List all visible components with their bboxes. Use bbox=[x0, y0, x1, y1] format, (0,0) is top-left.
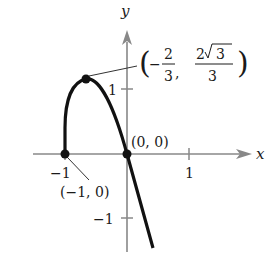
tick-label-y-pos1: 1 bbox=[108, 82, 117, 98]
tick-label-x-pos1: 1 bbox=[185, 165, 194, 181]
y-axis-label: y bbox=[120, 2, 130, 20]
minus-sign: − bbox=[149, 56, 161, 72]
frac1-numerator: 2 bbox=[164, 46, 173, 62]
graph: y x −1 1 1 −1 (0, 0) (−1, 0) ( − 2 3 , 2… bbox=[0, 0, 275, 260]
point-origin bbox=[123, 150, 132, 159]
point-neg1-0 bbox=[61, 150, 70, 159]
frac1-denominator: 3 bbox=[164, 68, 173, 84]
tick-label-x-neg1: −1 bbox=[50, 165, 71, 181]
leader-line-neg1-0 bbox=[68, 158, 89, 180]
label-neg1-0: (−1, 0) bbox=[60, 184, 109, 200]
frac2-denominator: 3 bbox=[208, 68, 217, 84]
frac2-coef: 2 bbox=[196, 46, 205, 62]
paren-close: ) bbox=[237, 45, 249, 80]
x-axis-label: x bbox=[256, 145, 265, 163]
tick-label-y-neg1: −1 bbox=[93, 211, 114, 227]
leader-line-maximum bbox=[89, 66, 137, 76]
label-maximum: ( − 2 3 , 2 3 3 ) bbox=[139, 44, 249, 84]
frac2-radicand: 3 bbox=[216, 46, 225, 62]
label-origin: (0, 0) bbox=[131, 134, 169, 150]
comma: , bbox=[175, 65, 179, 81]
